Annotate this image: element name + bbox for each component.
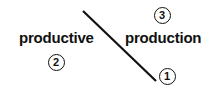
connector-layer bbox=[0, 0, 210, 92]
marker-3-label: 3 bbox=[159, 10, 165, 21]
marker-1-label: 1 bbox=[164, 71, 170, 82]
diagonal-connector-line bbox=[83, 11, 156, 81]
word-production: production bbox=[125, 30, 201, 45]
circled-number-marker-1: 1 bbox=[159, 68, 176, 85]
word-productive: productive bbox=[19, 30, 94, 45]
circled-number-marker-2: 2 bbox=[48, 54, 65, 71]
marker-2-label: 2 bbox=[53, 57, 59, 68]
circled-number-marker-3: 3 bbox=[154, 7, 171, 24]
diagram-canvas: productive production 3 2 1 bbox=[0, 0, 210, 92]
